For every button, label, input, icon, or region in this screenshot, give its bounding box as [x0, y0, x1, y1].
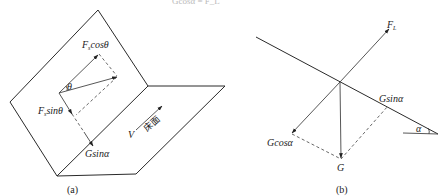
incline-line — [256, 37, 438, 134]
force-diagram: Gcosα = F_L Fscosθ θ Fssinθ Gsinα V 床面 (… — [0, 0, 445, 196]
panel-b: FL Gsinα Gcosα G α (b) — [256, 19, 438, 196]
floor-plane — [57, 86, 225, 176]
fl-arrow — [340, 29, 389, 82]
g-cos-arrow — [292, 82, 340, 133]
g-sin-dashed — [72, 114, 84, 132]
side-plane — [10, 10, 148, 176]
fl-label: FL — [386, 19, 397, 31]
fs-cos-label: Fscosθ — [81, 39, 109, 51]
g-sin-label-a: Gsinα — [85, 148, 110, 159]
g-sin-label-b: Gsinα — [379, 93, 404, 104]
caption-a: (a) — [67, 184, 78, 196]
g-cos-label: Gcosα — [267, 137, 294, 148]
fs-sin-label: Fssinθ — [37, 105, 63, 117]
top-cropped-text: Gcosα = F_L — [172, 0, 220, 6]
caption-b: (b) — [336, 184, 348, 196]
velocity-label: V — [128, 129, 136, 140]
panel-a: Fscosθ θ Fssinθ Gsinα V 床面 (a) — [10, 10, 225, 196]
dashed-line-g-to-incline — [341, 106, 388, 159]
g-sin-arrow — [84, 132, 93, 146]
g-label: G — [337, 162, 344, 173]
theta-label: θ — [67, 81, 72, 92]
floor-label: 床面 — [141, 113, 162, 133]
g-arrow — [340, 82, 341, 158]
dashed-line-cos-to-g — [292, 134, 341, 159]
alpha-label: α — [416, 123, 422, 134]
dashed-component-line — [99, 54, 117, 76]
